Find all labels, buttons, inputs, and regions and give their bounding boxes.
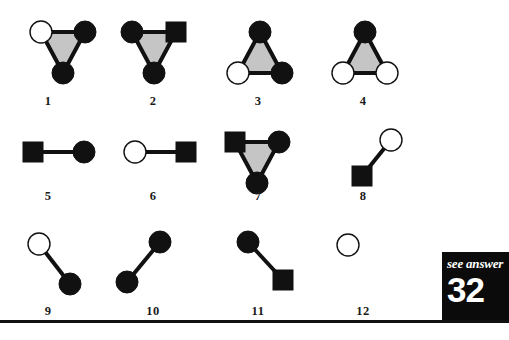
figure-graphic [230,230,330,310]
figure-label-10: 10 [146,305,160,318]
node-circle-black-top-right [149,231,171,253]
node-circle-white-top-left [28,233,50,255]
node-circle-black-top-right [74,21,96,43]
node-circle-black-bottom-left [116,271,138,293]
bottom-divider-rule [0,320,509,323]
node-circle-black-top-left [237,231,259,253]
answer-page-number: 32 [447,273,505,307]
node-circle-black-bottom-right [271,62,293,84]
node-circle-black-bottom [52,62,74,84]
figure-label-4: 4 [360,95,367,108]
figure-label-6: 6 [150,190,157,203]
node-circle-white-bottom-right [376,62,398,84]
node-square-black-right [176,142,196,162]
node-circle-black-top-left [121,21,143,43]
node-circle-black-top [354,21,376,43]
figure-label-11: 11 [252,305,265,318]
figure-label-1: 1 [45,95,52,108]
node-square-black-top-right [166,22,186,42]
puzzle-page: 123456789101112 see answer 32 [0,0,509,340]
figure-label-5: 5 [45,190,52,203]
node-square-black-bottom-right [273,270,293,290]
figure-label-3: 3 [255,95,262,108]
figure-label-2: 2 [150,95,157,108]
figure-label-12: 12 [356,305,370,318]
node-circle-white-bottom-left [227,62,249,84]
node-circle-black-top-right [268,131,290,153]
node-square-black-bottom-left [352,166,372,186]
figure-label-9: 9 [45,305,52,318]
figure-graphic [330,232,430,312]
see-answer-label: see answer [447,257,505,270]
figure-label-7: 7 [255,190,262,203]
figure-graphic [113,16,213,96]
node-circle-white-top-right [380,129,402,151]
figure-graphic [22,136,122,216]
node-circle-black-top [249,21,271,43]
see-answer-box[interactable]: see answer 32 [442,252,509,320]
figure-graphic [324,16,424,96]
node-square-black-top-left [225,132,245,152]
node-circle-white-only [337,234,359,256]
node-circle-white-bottom-left [332,62,354,84]
node-circle-black-bottom-right [59,273,81,295]
figure-graphic [219,16,319,96]
node-square-black-left [23,142,43,162]
figure-graphic [22,16,122,96]
node-circle-white-top-left [30,21,52,43]
figure-graphic [124,136,224,216]
node-circle-black-bottom [143,62,165,84]
node-circle-white-left [124,141,146,163]
figure-graphic [108,230,208,310]
figure-graphic [216,126,316,206]
node-circle-black-right [73,141,95,163]
figure-graphic [22,232,122,312]
figure-label-8: 8 [360,190,367,203]
